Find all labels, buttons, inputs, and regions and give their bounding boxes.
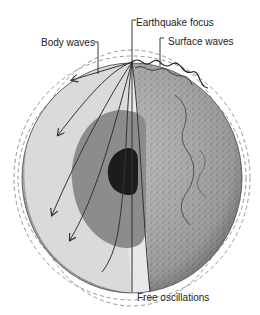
free-oscillations-label: Free oscillations — [137, 292, 209, 304]
body-waves-label: Body waves — [41, 37, 95, 49]
diagram-stage: Earthquake focus Surface waves Body wave… — [0, 0, 260, 315]
earthquake-focus-label: Earthquake focus — [136, 17, 214, 29]
surface-waves-label: Surface waves — [168, 36, 234, 48]
